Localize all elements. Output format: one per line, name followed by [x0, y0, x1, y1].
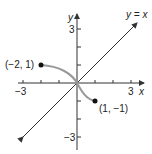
- identity-line-label: y = x: [125, 9, 148, 20]
- y-axis-label: y: [67, 12, 74, 23]
- y-min-label: −3: [64, 132, 76, 143]
- point-label-1: (−2, 1): [5, 59, 34, 70]
- point-label-2: (1, −1): [99, 103, 128, 114]
- identity-line: [23, 23, 137, 137]
- x-min-label: −3: [15, 86, 27, 97]
- y-max-label: 3: [69, 24, 75, 35]
- graph: (−2, 1) (1, −1) −3 3 x y 3 −3 y = x: [0, 0, 152, 154]
- x-max-label: 3: [128, 86, 134, 97]
- x-axis-label: x: [138, 86, 145, 97]
- point-1-neg1: [93, 99, 98, 104]
- point-neg2-1: [39, 63, 44, 68]
